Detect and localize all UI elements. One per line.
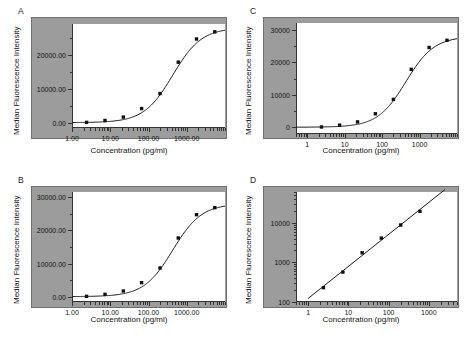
y-tick-label-a: 0.00 bbox=[52, 119, 66, 126]
x-axis-title-d: Concentration (pg/ml) bbox=[263, 316, 459, 324]
y-tick-minor-d bbox=[294, 225, 297, 226]
plot-area-c bbox=[296, 23, 457, 134]
x-tick-minor-a bbox=[107, 128, 108, 131]
data-point bbox=[122, 289, 125, 292]
x-tick-minor-a bbox=[198, 128, 199, 131]
x-tick-minor-b bbox=[172, 302, 173, 305]
y-tick-major-a bbox=[68, 123, 72, 124]
x-tick-minor-c bbox=[449, 134, 450, 137]
data-point bbox=[380, 236, 383, 239]
x-tick-minor-c bbox=[411, 134, 412, 137]
x-tick-minor-a bbox=[183, 128, 184, 131]
figure-root: A0.0010000.0020000.001.0010.00100.001000… bbox=[0, 0, 464, 345]
x-tick-minor-b bbox=[145, 302, 146, 305]
y-tick-minor-d bbox=[294, 239, 297, 240]
x-tick-minor-c bbox=[400, 134, 401, 137]
x-tick-minor-d bbox=[360, 302, 361, 305]
x-tick-minor-d bbox=[417, 302, 418, 305]
x-tick-minor-b bbox=[178, 302, 179, 305]
x-tick-minor-d bbox=[408, 302, 409, 305]
x-tick-major-b bbox=[110, 302, 111, 306]
x-tick-minor-c bbox=[367, 134, 368, 137]
y-tick-minor-d bbox=[294, 266, 297, 267]
x-tick-minor-b bbox=[143, 302, 144, 305]
x-tick-minor-a bbox=[172, 128, 173, 131]
y-tick-minor-a bbox=[70, 106, 73, 107]
y-axis-title-b: Median Fluorescence Intensity bbox=[13, 196, 21, 305]
x-tick-minor-c bbox=[296, 134, 297, 137]
data-point bbox=[418, 210, 421, 213]
x-tick-minor-c bbox=[437, 134, 438, 137]
x-tick-label-a: 1.00 bbox=[65, 135, 79, 142]
y-tick-label-b: 20000.00 bbox=[37, 227, 66, 234]
x-tick-minor-a bbox=[122, 128, 123, 131]
x-tick-minor-c bbox=[414, 134, 415, 137]
y-tick-minor-d bbox=[294, 290, 297, 291]
x-tick-minor-b bbox=[137, 302, 138, 305]
y-tick-label-c: 0 bbox=[286, 124, 290, 131]
x-tick-minor-c bbox=[356, 134, 357, 137]
x-tick-minor-a bbox=[102, 128, 103, 131]
x-tick-minor-c bbox=[446, 134, 447, 137]
data-point bbox=[320, 125, 323, 128]
data-point bbox=[158, 92, 161, 95]
y-tick-minor-b bbox=[70, 247, 73, 248]
x-tick-minor-a bbox=[99, 128, 100, 131]
x-tick-minor-b bbox=[140, 302, 141, 305]
data-point bbox=[322, 286, 325, 289]
data-point bbox=[177, 236, 180, 239]
x-tick-minor-d bbox=[382, 302, 383, 305]
x-tick-minor-a bbox=[145, 128, 146, 131]
y-tick-label-c: 10000 bbox=[271, 91, 290, 98]
data-point bbox=[122, 115, 125, 118]
x-tick-minor-a bbox=[219, 128, 220, 131]
x-tick-minor-d bbox=[336, 302, 337, 305]
data-point bbox=[158, 266, 161, 269]
x-tick-minor-b bbox=[133, 302, 134, 305]
x-tick-minor-a bbox=[133, 128, 134, 131]
y-tick-label-a: 20000.00 bbox=[37, 51, 66, 58]
x-tick-minor-d bbox=[347, 302, 348, 305]
x-axis-title-b: Concentration (pg/ml) bbox=[31, 316, 227, 324]
y-tick-label-a: 10000.00 bbox=[37, 85, 66, 92]
x-tick-minor-d bbox=[296, 302, 297, 305]
x-tick-label-d: 1000 bbox=[421, 309, 437, 316]
x-tick-minor-b bbox=[175, 302, 176, 305]
y-tick-major-c bbox=[292, 30, 296, 31]
y-tick-minor-d bbox=[294, 232, 297, 233]
x-tick-minor-c bbox=[325, 134, 326, 137]
x-tick-minor-a bbox=[175, 128, 176, 131]
x-tick-minor-c bbox=[457, 134, 458, 137]
plot-area-b bbox=[72, 192, 225, 302]
data-point bbox=[103, 119, 106, 122]
x-tick-minor-b bbox=[210, 302, 211, 305]
x-tick-major-a bbox=[72, 128, 73, 132]
x-tick-minor-c bbox=[408, 134, 409, 137]
x-tick-minor-b bbox=[221, 302, 222, 305]
data-point bbox=[356, 120, 359, 123]
fit-curve-a bbox=[72, 30, 225, 122]
x-tick-minor-b bbox=[107, 302, 108, 305]
x-tick-minor-b bbox=[160, 302, 161, 305]
x-tick-major-b bbox=[187, 302, 188, 306]
data-point bbox=[410, 68, 413, 71]
y-tick-major-b bbox=[68, 297, 72, 298]
x-tick-minor-c bbox=[299, 134, 300, 137]
y-tick-label-d: 100 bbox=[278, 299, 290, 306]
x-tick-minor-d bbox=[327, 302, 328, 305]
x-tick-minor-d bbox=[457, 302, 458, 305]
x-tick-major-a bbox=[149, 128, 150, 132]
y-tick-major-b bbox=[68, 197, 72, 198]
data-point bbox=[445, 39, 448, 42]
y-tick-minor-c bbox=[294, 111, 297, 112]
x-tick-minor-a bbox=[140, 128, 141, 131]
y-tick-minor-d bbox=[294, 204, 297, 205]
x-tick-minor-b bbox=[181, 302, 182, 305]
x-tick-minor-a bbox=[95, 128, 96, 131]
y-tick-minor-d bbox=[294, 211, 297, 212]
data-series-d bbox=[296, 192, 457, 302]
y-tick-minor-c bbox=[294, 79, 297, 80]
x-tick-minor-a bbox=[221, 128, 222, 131]
x-tick-minor-c bbox=[333, 134, 334, 137]
x-tick-minor-c bbox=[301, 134, 302, 137]
